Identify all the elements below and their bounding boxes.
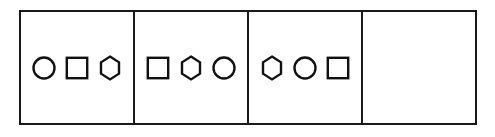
panel-4-answer-slot[interactable]	[363, 12, 475, 123]
square-shape	[323, 53, 353, 83]
circle-shape	[209, 53, 239, 83]
hexagon-shape	[176, 53, 206, 83]
panel-3	[249, 12, 363, 123]
sequence-puzzle-figure	[19, 10, 477, 125]
panel-2	[135, 12, 249, 123]
panel-1	[21, 12, 135, 123]
circle-shape	[290, 53, 320, 83]
circle-shape	[29, 53, 59, 83]
hexagon-shape	[95, 53, 125, 83]
square-shape	[143, 53, 173, 83]
hexagon-shape	[257, 53, 287, 83]
square-shape	[62, 53, 92, 83]
